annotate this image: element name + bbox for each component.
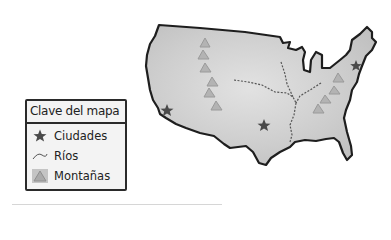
legend-item-rivers: Ríos	[27, 146, 125, 166]
legend-label: Ciudades	[54, 129, 107, 143]
legend-item-mountains: Montañas	[27, 166, 125, 186]
legend-item-cities: Ciudades	[27, 126, 125, 146]
mountain-triangle-icon	[31, 169, 48, 183]
legend-title: Clave del mapa	[27, 101, 125, 124]
legend-label: Ríos	[54, 149, 78, 163]
map-legend: Clave del mapa Ciudades Ríos Montañas	[25, 99, 127, 191]
us-outline	[146, 25, 376, 165]
river-line-icon	[31, 149, 48, 163]
star-icon	[31, 129, 48, 143]
divider-line	[12, 204, 222, 205]
legend-label: Montañas	[54, 169, 110, 183]
